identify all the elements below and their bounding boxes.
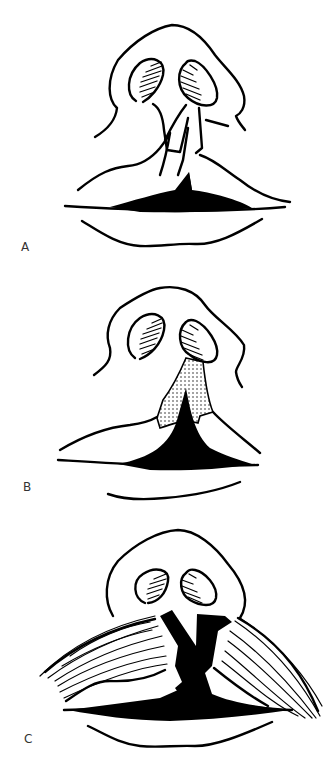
panel-label-c: C <box>24 732 32 746</box>
panel-a: A <box>0 0 336 260</box>
panel-b: B <box>0 260 336 506</box>
illustration-panel-c <box>0 506 336 766</box>
panel-label-a: A <box>21 240 29 254</box>
illustration-panel-b <box>0 260 336 506</box>
panel-label-b: B <box>23 480 31 494</box>
illustration-panel-a <box>0 0 336 260</box>
panel-c: C <box>0 506 336 766</box>
